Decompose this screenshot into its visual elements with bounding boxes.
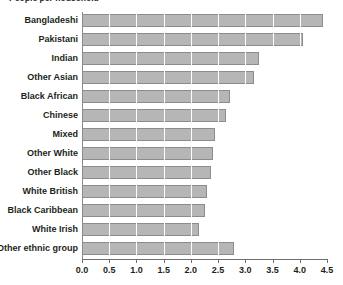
x-axis-line (82, 259, 328, 260)
bar (82, 52, 259, 65)
bar (82, 14, 323, 27)
bar (82, 166, 211, 179)
y-axis-category-labels: BangladeshiPakistaniIndianOther AsianBla… (0, 12, 78, 259)
x-tick-label: 2.0 (185, 265, 198, 275)
x-tick-mark (191, 260, 192, 263)
category-label: Other Black (27, 166, 78, 179)
x-tick-mark (164, 260, 165, 263)
plot-area (82, 12, 327, 259)
x-tick-label: 2.5 (212, 265, 225, 275)
x-tick-label: 4.5 (321, 265, 334, 275)
bar (82, 223, 199, 236)
bar (82, 185, 207, 198)
bar-row (82, 52, 327, 65)
bar (82, 90, 230, 103)
x-tick-label: 1.0 (130, 265, 143, 275)
bar-row (82, 223, 327, 236)
x-tick-mark (245, 260, 246, 263)
x-tick-mark (327, 260, 328, 263)
bar-row (82, 90, 327, 103)
x-tick-mark (300, 260, 301, 263)
bar-row (82, 204, 327, 217)
category-label: Chinese (43, 109, 78, 122)
category-label: White British (23, 185, 79, 198)
bar-row (82, 71, 327, 84)
gridline-4.5 (327, 12, 328, 259)
bar (82, 33, 303, 46)
category-label: Mixed (52, 128, 78, 141)
category-label: Pakistani (38, 33, 78, 46)
category-label: Other ethnic group (0, 242, 78, 255)
chart-title: People per household (9, 0, 99, 3)
category-label: Black Caribbean (7, 204, 78, 217)
x-tick-mark (109, 260, 110, 263)
bar-row (82, 33, 327, 46)
category-label: Indian (52, 52, 79, 65)
x-tick-label: 0.5 (103, 265, 116, 275)
bar (82, 204, 205, 217)
bar-row (82, 242, 327, 255)
bar (82, 71, 254, 84)
bar (82, 128, 215, 141)
bar-row (82, 185, 327, 198)
bar (82, 242, 234, 255)
x-tick-mark (273, 260, 274, 263)
bar (82, 109, 226, 122)
x-tick-label: 3.0 (239, 265, 252, 275)
category-label: Other Asian (27, 71, 78, 84)
x-tick-mark (136, 260, 137, 263)
category-label: White Irish (32, 223, 78, 236)
x-tick-mark (82, 260, 83, 263)
bar-chart: People per household BangladeshiPakistan… (0, 0, 343, 285)
x-tick-label: 4.0 (294, 265, 307, 275)
bar (82, 147, 213, 160)
x-tick-label: 1.5 (157, 265, 170, 275)
bar-row (82, 14, 327, 27)
bar-row (82, 109, 327, 122)
category-label: Black African (21, 90, 78, 103)
bar-row (82, 147, 327, 160)
bar-row (82, 166, 327, 179)
x-tick-label: 3.5 (266, 265, 279, 275)
x-tick-label: 0.0 (76, 265, 89, 275)
category-label: Other White (27, 147, 78, 160)
x-tick-mark (218, 260, 219, 263)
category-label: Bangladeshi (24, 14, 78, 27)
bar-row (82, 128, 327, 141)
